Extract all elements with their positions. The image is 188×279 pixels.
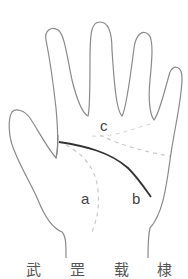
dashed-line-a	[66, 145, 99, 232]
caption-text: 武 罡 载 棣	[26, 258, 184, 279]
label-c: c	[100, 118, 108, 133]
dashed-line-c	[100, 135, 170, 156]
label-a: a	[81, 191, 89, 206]
solid-crease-line	[59, 142, 151, 197]
label-b: b	[132, 191, 140, 206]
